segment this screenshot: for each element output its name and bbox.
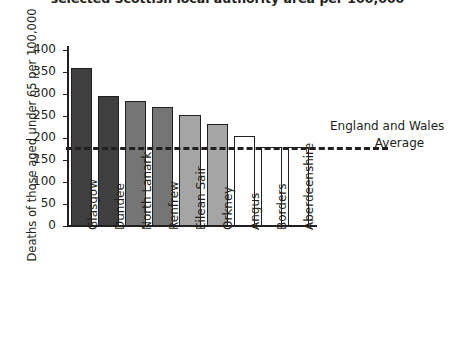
reference-line-annotation: England and Wales Average [330,118,455,152]
y-tick-label: 300 [33,86,56,100]
x-tick-label: North Lanark [141,152,154,230]
y-tick: 300 [63,94,68,95]
x-tick-label: Aberdeenshire [303,143,316,230]
chart-title: selected Scottish local authority area p… [0,0,455,6]
y-tick: 0 [63,226,68,227]
y-tick-label: 150 [33,152,56,166]
x-tick-label: Angus [249,193,262,230]
annotation-line-1: England and Wales [330,118,455,135]
x-tick-label: Dundee [114,183,127,230]
x-tick-label: Renfrew [168,181,181,230]
y-tick-label: 250 [33,108,56,122]
y-tick: 100 [63,182,68,183]
annotation-line-2: Average [330,135,455,152]
plot-area: 400350300250200150100500 GlasgowDundeeNo… [68,50,312,226]
x-tick-label: Eilean Sair [195,166,208,230]
x-tick-label: Borders [276,184,289,230]
y-tick-label: 50 [41,196,56,210]
y-tick-label: 100 [33,174,56,188]
y-tick-label: 400 [33,42,56,56]
y-tick: 50 [63,204,68,205]
y-tick: 150 [63,160,68,161]
x-tick-label: Orkney [222,187,235,230]
y-axis-title: Deaths of those aged under 65 per 100,00… [25,27,39,262]
y-tick: 200 [63,138,68,139]
y-tick: 400 [63,50,68,51]
x-tick-label: Glasgow [87,179,100,230]
y-tick: 350 [63,72,68,73]
y-tick-label: 350 [33,64,56,78]
y-tick-label: 200 [33,130,56,144]
y-tick-label: 0 [48,218,56,232]
bar-chart: selected Scottish local authority area p… [0,0,455,340]
y-tick: 250 [63,116,68,117]
